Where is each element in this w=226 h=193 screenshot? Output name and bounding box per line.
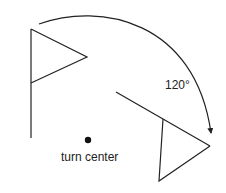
original-flag-triangle [31,29,87,83]
rotation-arc-arrow [39,16,211,133]
rotation-diagram: 120° turn center [0,0,226,193]
angle-label: 120° [165,78,190,92]
turn-center-dot [85,137,91,143]
turn-center-label: turn center [61,150,118,164]
rotated-flag-triangle [159,119,210,181]
rotated-flag [116,92,210,181]
original-flag [31,29,87,138]
